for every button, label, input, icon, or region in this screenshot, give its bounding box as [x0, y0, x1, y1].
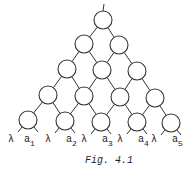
edge	[89, 104, 96, 115]
edge	[53, 76, 61, 87]
input-labels: λa1λa2λa3λa4λa5	[8, 134, 183, 148]
a-subscript: 2	[72, 139, 77, 148]
edge	[107, 52, 114, 62]
edge	[124, 52, 132, 63]
node-circle	[128, 113, 146, 131]
edge	[72, 51, 79, 61]
a-subscript: 3	[108, 139, 113, 148]
edge	[125, 79, 132, 90]
input-edge-lambda	[127, 129, 131, 134]
triangular-array-diagram: λa1λa2λa3λa4λa5 Fig. 4.1	[0, 0, 191, 175]
edge	[89, 51, 97, 62]
edge	[142, 105, 149, 115]
edge	[34, 102, 43, 113]
a-subscript: 5	[178, 139, 183, 148]
node-circle	[93, 61, 111, 79]
a-subscript: 1	[30, 139, 35, 148]
edge	[89, 77, 97, 88]
input-edge-lambda	[161, 130, 165, 135]
edge	[160, 106, 166, 116]
output-edge	[103, 4, 104, 11]
figure-caption: Fig. 4.1	[85, 155, 133, 166]
node-circle	[94, 11, 112, 29]
node-circle	[56, 112, 74, 130]
node-circle	[58, 60, 76, 78]
node-circle	[39, 86, 57, 104]
node-circle	[128, 62, 146, 80]
node-circle	[19, 111, 37, 129]
node-circle	[75, 87, 93, 105]
lambda-label: λ	[117, 134, 123, 145]
edge	[70, 103, 78, 114]
edge	[125, 104, 132, 114]
node-circle	[92, 113, 110, 131]
input-edge-a	[71, 128, 75, 133]
edge	[106, 104, 114, 115]
node-circle	[146, 89, 164, 107]
lambda-label: λ	[8, 134, 14, 145]
node-circle	[75, 35, 93, 53]
edge	[90, 27, 98, 37]
node-circle	[110, 36, 128, 54]
lambda-label: λ	[151, 134, 157, 145]
node-circle	[162, 114, 180, 132]
edge	[72, 77, 79, 89]
input-edge-lambda	[91, 129, 95, 134]
lambda-label: λ	[45, 134, 51, 145]
edge	[53, 103, 60, 114]
input-edge-lambda	[55, 128, 59, 133]
a-subscript: 4	[144, 139, 149, 148]
input-edge-a	[34, 127, 38, 132]
input-edge-lambda	[18, 127, 22, 132]
edge	[142, 78, 150, 90]
edge	[107, 77, 115, 89]
node-circle	[111, 88, 129, 106]
lambda-label: λ	[81, 134, 87, 145]
nodes	[19, 11, 180, 132]
edge	[108, 28, 114, 38]
